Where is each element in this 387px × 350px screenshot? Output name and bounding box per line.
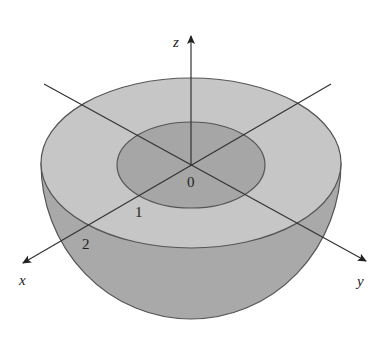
origin-label: 0	[187, 174, 195, 190]
tick-label-2: 2	[82, 236, 90, 252]
z-axis-label: z	[172, 34, 179, 50]
y-axis-label: y	[355, 273, 364, 289]
x-axis-label: x	[18, 272, 26, 288]
hemisphere-shell-diagram: z x y 0 1 2	[0, 0, 387, 350]
tick-label-1: 1	[135, 204, 143, 220]
